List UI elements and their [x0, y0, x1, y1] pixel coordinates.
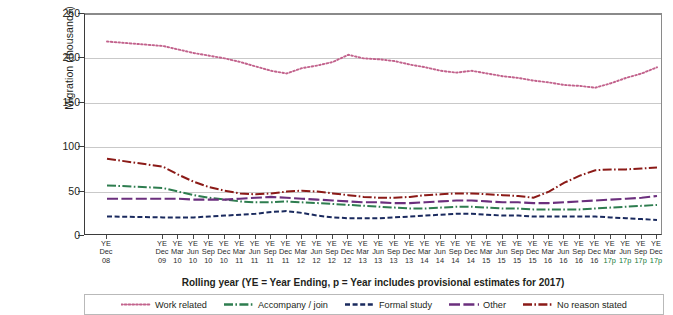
legend-label: No reason stated: [557, 300, 627, 310]
y-axis-tick-label: 200: [48, 52, 80, 62]
legend-item[interactable]: Other: [449, 300, 506, 310]
y-axis-tick-mark: [78, 191, 84, 192]
y-axis-tick-mark: [78, 13, 84, 14]
legend-item[interactable]: Work related: [121, 300, 207, 310]
series-line: [107, 211, 657, 220]
series-line: [107, 159, 657, 198]
y-axis-tick-label: 100: [48, 141, 80, 151]
legend-label: Accompany / join: [258, 300, 328, 310]
x-axis-tick-label: YEDec17p: [643, 240, 669, 265]
y-axis-tick-mark: [78, 146, 84, 147]
y-axis-tick-label: 150: [48, 97, 80, 107]
legend-label: Formal study: [379, 300, 432, 310]
y-axis-tick-label: 0: [48, 230, 80, 240]
x-axis-tick-labels: YEDec08YEDec09YEMar10YEJun10YESep10YEDec…: [84, 240, 662, 274]
y-axis-tick-label: 250: [48, 8, 80, 18]
series-line: [107, 42, 657, 88]
y-axis-tick-labels: 050100150200250: [44, 0, 80, 250]
legend-item[interactable]: Formal study: [345, 300, 432, 310]
legend-label: Work related: [155, 300, 207, 310]
chart-legend: Work relatedAccompany / joinFormal study…: [84, 294, 664, 315]
series-lines: [85, 14, 663, 236]
y-axis-tick-mark: [78, 235, 84, 236]
legend-label: Other: [483, 300, 506, 310]
legend-swatch-icon: [523, 300, 553, 309]
legend-swatch-icon: [121, 300, 151, 309]
legend-item[interactable]: Accompany / join: [224, 300, 328, 310]
legend-item[interactable]: No reason stated: [523, 300, 627, 310]
plot-area: [84, 13, 662, 235]
y-axis-tick-label: 50: [48, 186, 80, 196]
y-axis-tick-mark: [78, 57, 84, 58]
legend-swatch-icon: [345, 300, 375, 309]
legend-swatch-icon: [224, 300, 254, 309]
x-axis-tick-label: YEDec08: [93, 240, 119, 265]
y-axis-tick-mark: [78, 102, 84, 103]
chart-figure: Migration (thousands) 050100150200250 YE…: [0, 0, 673, 315]
legend-swatch-icon: [449, 300, 479, 309]
x-axis-title: Rolling year (YE = Year Ending, p = Year…: [84, 277, 662, 288]
